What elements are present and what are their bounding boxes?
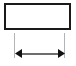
dimensioned-rectangle-diagram (0, 0, 76, 66)
left-arrowhead (15, 49, 22, 58)
diagram-canvas (0, 0, 76, 66)
rectangle-shape (5, 4, 70, 29)
right-arrowhead (58, 49, 65, 58)
